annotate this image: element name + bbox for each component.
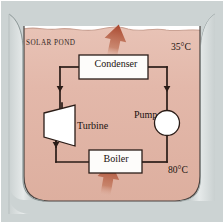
condenser-label: Condenser bbox=[84, 59, 148, 69]
solar-pond-diagram: SOLAR POND 35°C 80°C Condenser Turbine P… bbox=[0, 0, 224, 223]
boiler-label: Boiler bbox=[91, 154, 141, 164]
turbine-label: Turbine bbox=[77, 121, 108, 131]
solar-pond-label: SOLAR POND bbox=[26, 40, 75, 47]
temperature-top-label: 35°C bbox=[171, 42, 191, 52]
diagram-canvas bbox=[0, 0, 224, 223]
pump-label: Pump bbox=[134, 110, 157, 120]
temperature-bottom-label: 80°C bbox=[168, 165, 188, 175]
pump-shape[interactable] bbox=[155, 111, 180, 136]
